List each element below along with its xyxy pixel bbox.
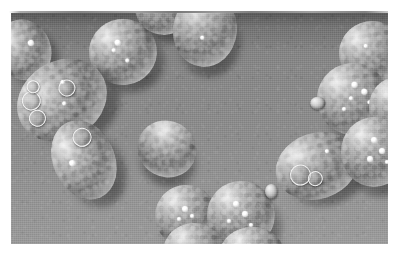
cell-center-isolated [127, 110, 206, 188]
figure-page [0, 0, 394, 255]
surface-granule [351, 81, 358, 88]
cell-body [127, 110, 206, 188]
cell-bud [265, 184, 278, 199]
surface-granule [111, 48, 116, 53]
surface-granule [190, 214, 194, 218]
cell-top-center-3 [169, 13, 240, 70]
cell-field [11, 13, 388, 244]
micrograph-plate [11, 13, 388, 244]
cell-body [169, 13, 240, 70]
surface-granule [371, 137, 377, 143]
